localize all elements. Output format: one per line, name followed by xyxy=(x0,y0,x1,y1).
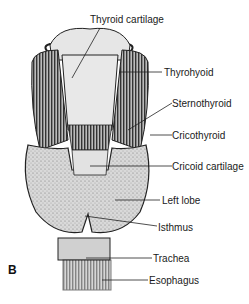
label-isthmus: Isthmus xyxy=(158,222,193,233)
panel-letter: B xyxy=(8,263,17,277)
label-thyrohyoid: Thyrohyoid xyxy=(164,67,213,78)
label-thyroid-cartilage: Thyroid cartilage xyxy=(90,14,164,25)
label-trachea: Trachea xyxy=(153,253,189,264)
label-left-lobe: Left lobe xyxy=(162,195,200,206)
thyroid-illustration xyxy=(0,0,249,304)
label-cricothyroid: Cricothyroid xyxy=(172,130,225,141)
label-sternothyroid: Sternothyroid xyxy=(172,98,231,109)
label-cricoid-cartilage: Cricoid cartilage xyxy=(172,161,244,172)
label-esophagus: Esophagus xyxy=(149,275,199,286)
